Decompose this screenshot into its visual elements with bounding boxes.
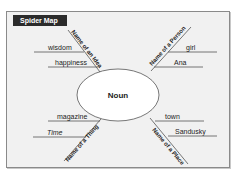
leg-place-example-2: Sandusky — [175, 128, 206, 136]
leg-idea: Name of an Idea wisdom happiness — [34, 29, 104, 72]
leg-person: Name of a Person girl Ana — [148, 25, 217, 71]
center-label: Noun — [108, 91, 129, 100]
leg-person-example-2: Ana — [174, 59, 187, 66]
leg-thing-example-1: magazine — [57, 113, 87, 121]
leg-idea-example-1: wisdom — [47, 44, 72, 51]
leg-place: Name of a Place town Sandusky — [150, 113, 217, 166]
leg-person-example-1: girl — [186, 44, 196, 52]
leg-thing-label: Name of a Thing — [64, 123, 99, 162]
leg-idea-example-2: happiness — [55, 59, 87, 67]
spider-map: Noun Name of an Idea wisdom happiness Na… — [0, 0, 238, 175]
leg-thing: Name of a Thing magazine Time — [33, 113, 101, 163]
leg-thing-example-2: Time — [47, 129, 63, 136]
leg-place-example-1: town — [165, 113, 180, 120]
